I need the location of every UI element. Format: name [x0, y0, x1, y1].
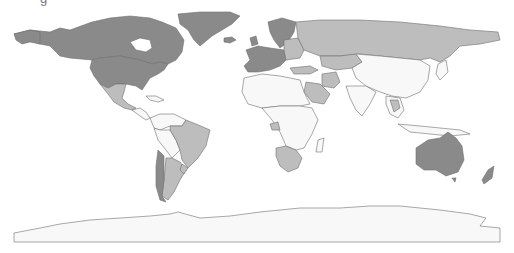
region-new-zealand[interactable] [482, 166, 494, 184]
region-caribbean[interactable] [146, 96, 164, 102]
region-madagascar[interactable] [316, 138, 324, 152]
region-indonesia[interactable] [398, 124, 470, 136]
region-turkey[interactable] [290, 66, 318, 74]
region-antarctica[interactable] [14, 206, 500, 242]
region-central-america[interactable] [132, 108, 150, 120]
region-tasmania[interactable] [452, 178, 456, 182]
region-iceland[interactable] [224, 37, 236, 43]
region-gabon[interactable] [270, 122, 280, 130]
region-alaska[interactable] [14, 30, 40, 44]
world-choropleth-map [0, 0, 514, 253]
region-iran[interactable] [322, 72, 340, 88]
region-india[interactable] [346, 86, 376, 116]
region-mexico[interactable] [100, 84, 136, 110]
region-australia[interactable] [416, 132, 464, 176]
region-western-europe[interactable] [244, 46, 286, 72]
region-uk-ireland[interactable] [250, 36, 258, 46]
region-japan[interactable] [436, 60, 448, 80]
region-north-africa[interactable] [242, 74, 310, 108]
region-central-africa[interactable] [262, 106, 318, 150]
region-southern-africa[interactable] [276, 146, 302, 172]
